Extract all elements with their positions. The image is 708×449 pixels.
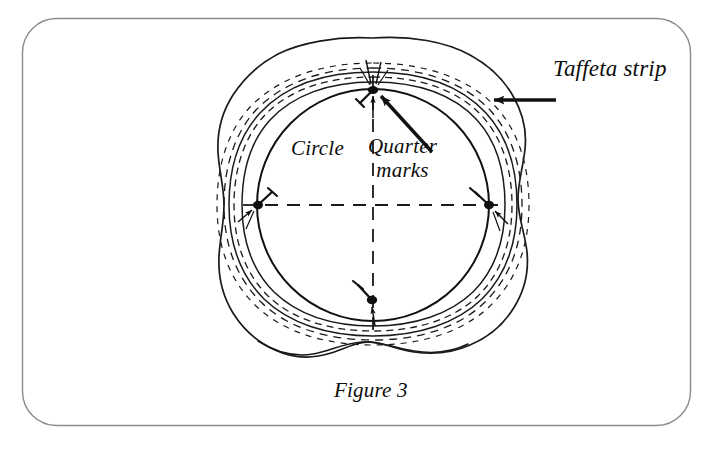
pin-shaft-left — [258, 192, 272, 205]
label-quarter-marks-line1: Quarter — [368, 134, 437, 158]
pin-shaft-top — [360, 90, 373, 103]
taffeta-strip-inner-edge — [242, 82, 505, 326]
pin-crossbar-bottom — [353, 281, 363, 289]
label-quarter-marks: Quarter marks — [368, 135, 437, 181]
label-taffeta-strip: Taffeta strip — [553, 57, 667, 81]
label-circle: Circle — [291, 137, 344, 159]
figure-caption: Figure 3 — [334, 379, 408, 401]
pin-crossbar-right — [470, 188, 479, 196]
figure-panel: Taffeta strip Circle Quarter marks Figur… — [0, 0, 708, 449]
label-quarter-marks-line2: marks — [368, 159, 437, 181]
